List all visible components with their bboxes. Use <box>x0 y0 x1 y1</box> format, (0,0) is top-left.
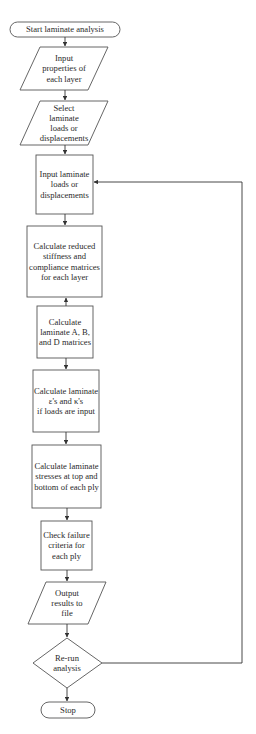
rerun-label: Re-run analysis <box>37 638 97 688</box>
start-label: Start laminate analysis <box>10 22 120 37</box>
calc-abd-label: Calculate laminate A, B, and D matrices <box>35 306 95 358</box>
calc-reduced-label: Calculate reduced stiffness and complian… <box>25 226 104 297</box>
stop-label: Stop <box>41 702 95 718</box>
calc-strains-label: Calculate laminate ε's and κ's if loads … <box>31 370 101 432</box>
calc-stresses-label: Calculate laminate stresses at top and b… <box>30 445 103 508</box>
input-properties-label: Input properties of each layer <box>24 47 104 90</box>
check-failure-label: Check failure criteria for each ply <box>39 521 94 570</box>
input-loads-label: Input laminate loads or displacements <box>34 155 95 214</box>
output-label: Output results to file <box>32 582 102 624</box>
loop-back-arrow <box>94 182 242 663</box>
select-loads-label: Select laminate loads or displacements <box>24 101 104 145</box>
